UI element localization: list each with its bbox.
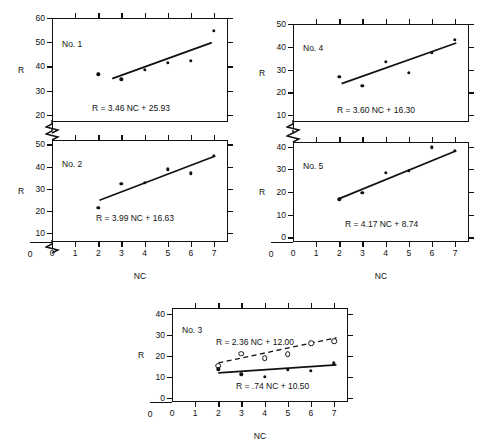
y-axis-spine	[52, 18, 53, 128]
y-tick-right	[469, 47, 474, 48]
y-tick-right	[348, 377, 353, 378]
y-tick-right	[228, 144, 233, 145]
x-tick-bottom	[75, 242, 76, 247]
x-tick-bottom	[432, 242, 433, 247]
x-tick-label: 2	[337, 249, 342, 258]
y-axis-spine	[52, 140, 53, 248]
y-tick-label: 40	[36, 162, 45, 171]
x-tick-bottom	[195, 402, 196, 407]
y-tick-right	[469, 115, 474, 116]
y-tick-right	[348, 398, 353, 399]
regression-equation-label: R = 4.17 NC + 8.74	[345, 220, 418, 229]
y-tick-label: 20	[277, 88, 286, 97]
y-tick-right	[469, 70, 474, 71]
x-tick-bottom	[409, 242, 410, 247]
regression-line	[342, 43, 457, 84]
chart-panel-no-1: 2030405060RNo. 1R = 3.46 NC + 25.93	[52, 18, 228, 122]
y-tick-right	[469, 215, 474, 216]
x-tick-bottom	[121, 242, 122, 247]
x-tick-label-zero: 0	[28, 249, 33, 259]
x-tick-bottom	[265, 402, 266, 407]
x-tick-bottom	[339, 242, 340, 247]
y-tick-label: 20	[36, 110, 45, 119]
y-axis-spine	[293, 24, 294, 128]
y-tick-label: 40	[36, 62, 45, 71]
regression-equation-label: R = 3.99 NC + 16.63	[96, 214, 174, 223]
y-tick-label: 10	[156, 373, 165, 382]
x-tick-label: 5	[165, 249, 170, 258]
x-tick-bottom	[311, 402, 312, 407]
x-tick-label-zero: 0	[269, 249, 274, 259]
x-tick-bottom	[386, 242, 387, 247]
x-tick-label: 5	[285, 409, 290, 418]
y-tick-right	[469, 24, 474, 25]
y-tick-right	[228, 18, 233, 19]
y-axis-title: R	[18, 187, 24, 196]
y-tick-label: 20	[156, 352, 165, 361]
y-tick-right	[469, 192, 474, 193]
y-tick-label: 10	[277, 210, 286, 219]
chart-panel-no-5: 01020304001234567NCRNo. 5R = 4.17 NC + 8…	[293, 142, 469, 242]
regression-equation-label: R = 3.60 NC + 16.30	[337, 106, 415, 115]
x-tick-bottom	[214, 242, 215, 247]
x-axis-title: NC	[254, 432, 266, 441]
x-tick-label: 4	[142, 249, 147, 258]
regression-line	[112, 43, 212, 79]
y-tick-label: 30	[156, 331, 165, 340]
y-tick-right	[228, 42, 233, 43]
x-tick-label: 1	[73, 249, 78, 258]
y-tick-label: 60	[36, 14, 45, 23]
regression-equation-label: R = 3.46 NC + 25.93	[92, 104, 170, 113]
x-tick-label: 7	[332, 409, 337, 418]
y-tick-right	[348, 335, 353, 336]
y-axis-title: R	[18, 66, 24, 75]
y-tick-label: 0	[281, 233, 286, 242]
y-axis-title: R	[259, 69, 265, 78]
y-tick-label: 0	[160, 394, 165, 403]
y-tick-right	[469, 147, 474, 148]
x-tick-label-zero: 0	[148, 409, 153, 419]
x-tick-label: 6	[430, 249, 435, 258]
x-tick-bottom	[455, 242, 456, 247]
x-axis-extension	[30, 242, 52, 243]
y-tick-label: 50	[36, 140, 45, 149]
y-tick-label: 10	[277, 111, 286, 120]
data-point	[239, 351, 245, 357]
y-tick-label: 50	[36, 38, 45, 47]
x-tick-label: 3	[360, 249, 365, 258]
y-tick-right	[228, 66, 233, 67]
y-tick-right	[228, 189, 233, 190]
y-axis-spine	[172, 308, 173, 402]
y-tick-label: 50	[277, 20, 286, 29]
x-tick-label: 3	[119, 249, 124, 258]
y-tick-right	[348, 314, 353, 315]
x-axis-extension	[150, 402, 172, 403]
x-tick-bottom	[334, 402, 335, 407]
regression-equation-label: R = 2.36 NC + 12.00	[216, 338, 294, 347]
x-axis-title: NC	[375, 272, 387, 281]
regression-line	[218, 365, 336, 373]
x-tick-bottom	[168, 242, 169, 247]
x-tick-bottom	[362, 242, 363, 247]
y-tick-label: 30	[36, 185, 45, 194]
regression-line	[99, 156, 215, 200]
x-tick-label: 6	[189, 249, 194, 258]
data-point	[262, 355, 268, 361]
regression-lines	[52, 140, 228, 242]
x-tick-label: 2	[216, 409, 221, 418]
x-axis-title: NC	[134, 272, 146, 281]
y-axis-spine	[293, 142, 294, 242]
x-tick-bottom	[316, 242, 317, 247]
y-tick-label: 30	[277, 65, 286, 74]
x-tick-bottom	[98, 242, 99, 247]
y-tick-right	[228, 233, 233, 234]
x-tick-label: 7	[212, 249, 217, 258]
chart-panel-no-4: 1020304050RNo. 4R = 3.60 NC + 16.30	[293, 24, 469, 122]
x-tick-bottom	[218, 402, 219, 407]
x-tick-label: 7	[453, 249, 458, 258]
y-tick-label: 30	[36, 86, 45, 95]
y-tick-label: 30	[277, 165, 286, 174]
y-tick-right	[228, 115, 233, 116]
x-tick-label: 6	[309, 409, 314, 418]
chart-panel-no-3: 01020304001234567NCRNo. 3R = 2.36 NC + 1…	[172, 308, 348, 402]
